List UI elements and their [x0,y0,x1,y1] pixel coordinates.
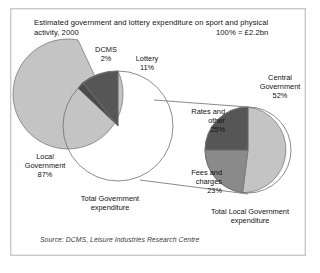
label-rates-and-other-value: 25% [163,125,225,134]
label-local-government: Local Government 87% [14,152,76,180]
label-rates-and-other-name2: other [163,116,225,125]
label-local-government-name2: Government [14,161,76,170]
label-local-government-name1: Local [14,152,76,161]
label-central-government: Central Government 52% [249,73,311,101]
pie-chart-figure: Estimated government and lottery expendi… [0,0,320,273]
label-central-government-name1: Central [249,73,311,82]
label-rates-and-other-name1: Rates and [163,107,225,116]
caption-total-government-line2: expenditure [62,203,158,212]
label-fees-and-charges-name2: charges [160,177,222,186]
label-lottery: Lottery 11% [125,54,169,72]
caption-total-local-government-line2: expenditure [195,216,305,225]
label-central-government-value: 52% [249,91,311,100]
label-lottery-name: Lottery [125,54,169,63]
label-dcms-value: 2% [84,54,128,63]
label-dcms: DCMS 2% [84,45,128,63]
caption-total-local-government-expenditure: Total Local Government expenditure [195,207,305,225]
caption-total-government-expenditure: Total Government expenditure [62,194,158,212]
label-central-government-name2: Government [249,82,311,91]
caption-total-government-line1: Total Government [62,194,158,203]
label-fees-and-charges: Fees and charges 23% [160,168,222,196]
source-note: Source: DCMS, Leisure Industries Researc… [40,236,199,243]
label-local-government-value: 87% [14,170,76,179]
label-fees-and-charges-value: 23% [160,186,222,195]
caption-total-local-government-line1: Total Local Government [195,207,305,216]
pie-graphics [0,0,320,273]
label-fees-and-charges-name1: Fees and [160,168,222,177]
label-lottery-value: 11% [125,63,169,72]
label-rates-and-other: Rates and other 25% [163,107,225,135]
label-dcms-name: DCMS [84,45,128,54]
